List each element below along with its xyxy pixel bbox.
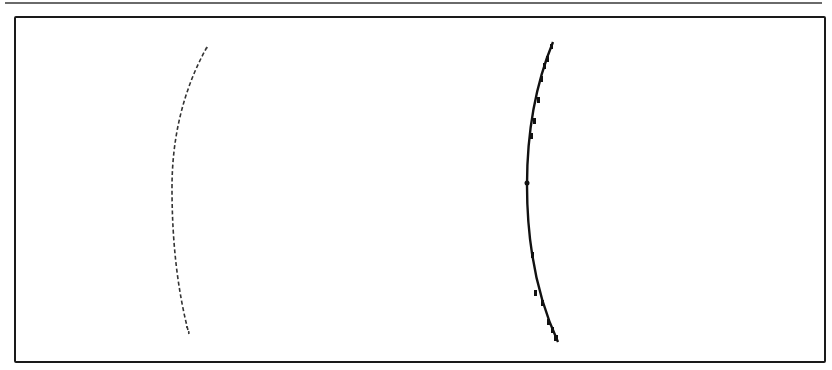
left-arc <box>172 47 207 334</box>
right-arc-marker <box>525 181 530 186</box>
left-arc-end-dots <box>186 47 208 333</box>
arc-diagram <box>0 0 832 370</box>
right-arc <box>527 42 558 342</box>
right-arc-steps <box>530 44 558 341</box>
